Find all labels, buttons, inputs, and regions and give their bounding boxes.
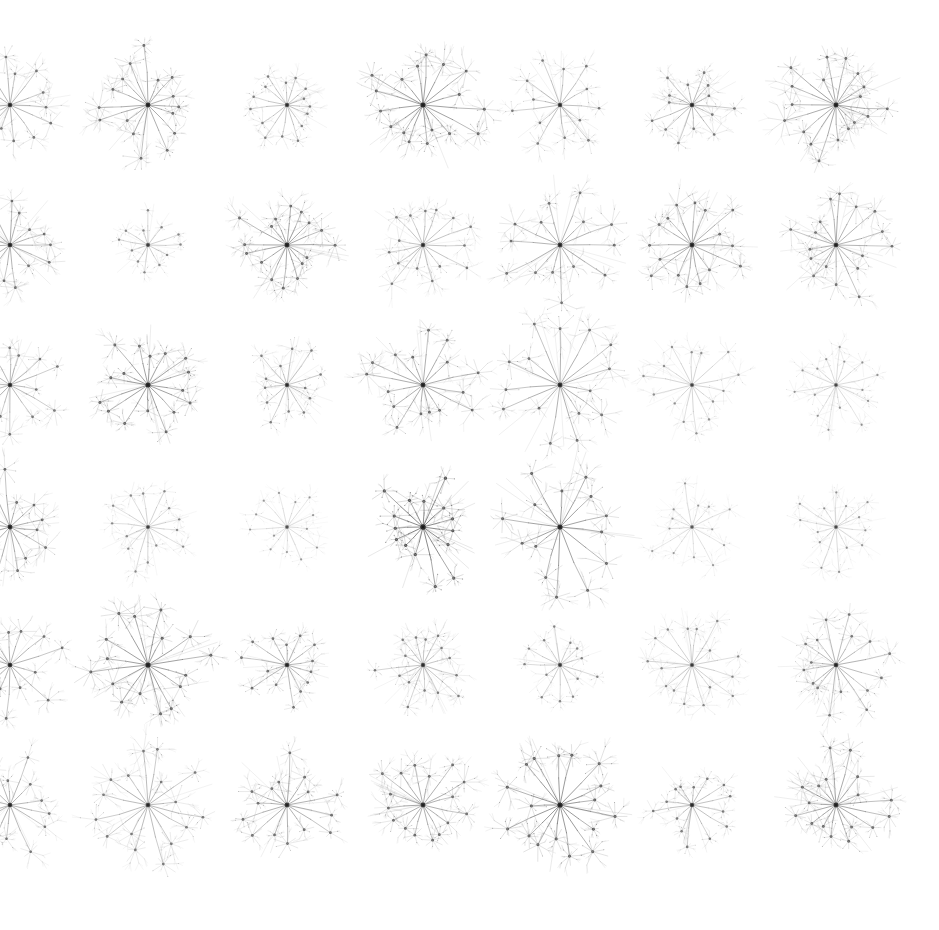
network-graph-grid-figure <box>0 0 939 930</box>
network-graph-cell <box>787 484 886 581</box>
network-graph-cell <box>514 620 605 712</box>
network-graph-cell <box>638 767 738 858</box>
network-graph-cell <box>344 319 497 440</box>
network-graph-cell <box>778 603 905 733</box>
network-graph-cell <box>368 750 488 852</box>
network-graph-cell <box>779 182 900 309</box>
network-graph-cell <box>637 179 758 302</box>
network-graph-cell <box>0 738 67 869</box>
network-graph-cell <box>500 50 608 163</box>
network-graph-cell <box>368 466 474 595</box>
network-graph-cell <box>231 736 347 857</box>
network-graph-cell <box>243 63 327 149</box>
network-graph-cell <box>100 480 196 587</box>
network-graph-cell <box>225 189 349 303</box>
network-graph-cell <box>639 608 750 720</box>
network-graph-cell <box>491 445 642 611</box>
network-graph-grid-canvas <box>0 0 939 930</box>
network-graph-cell <box>375 197 483 308</box>
network-graph-cell <box>251 336 332 435</box>
network-graph-cell <box>0 448 60 590</box>
network-graph-cell <box>631 333 756 443</box>
network-graph-cell <box>0 188 65 306</box>
network-graph-cell <box>485 736 632 876</box>
network-graph-cell <box>70 592 229 726</box>
network-graph-cell <box>0 46 70 162</box>
network-graph-cell <box>110 203 187 283</box>
network-graph-cell <box>89 325 207 445</box>
network-graph-cell <box>759 46 900 172</box>
network-graph-cell <box>487 175 629 316</box>
network-graph-cell <box>240 484 328 571</box>
network-graph-cell <box>367 618 476 716</box>
network-graph-cell <box>644 63 747 151</box>
network-graph-cell <box>80 36 195 170</box>
network-graph-cell <box>638 476 745 580</box>
network-graph-cell <box>72 724 215 877</box>
network-graph-cell <box>235 622 329 712</box>
network-graph-cell <box>488 307 629 460</box>
network-graph-cell <box>0 336 69 445</box>
network-graph-cell <box>786 330 887 441</box>
network-graph-cell <box>0 614 72 729</box>
network-graph-cell <box>775 730 906 853</box>
network-graph-cell <box>357 42 504 168</box>
